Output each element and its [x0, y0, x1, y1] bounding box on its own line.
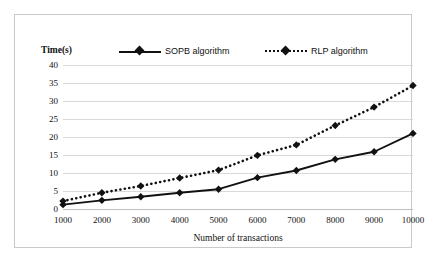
legend-swatch-dotted-line-icon: [265, 46, 307, 57]
legend-item-rlp[interactable]: RLP algorithm: [265, 43, 368, 59]
chart-frame: Time(s) SOPB algorithm RLP algorithm 051…: [14, 14, 412, 248]
data-point: [176, 174, 183, 181]
y-tick-label-20: 20: [49, 132, 58, 142]
x-tick-label-8000: 8000: [326, 215, 344, 225]
x-tick-label-4000: 4000: [171, 215, 189, 225]
x-tick-label-5000: 5000: [210, 215, 228, 225]
data-point: [176, 189, 183, 196]
legend-item-sopb[interactable]: SOPB algorithm: [119, 43, 230, 59]
data-point: [409, 130, 416, 137]
y-tick-label-0: 0: [54, 204, 59, 214]
data-point: [293, 167, 300, 174]
y-axis-title: Time(s): [41, 45, 72, 55]
data-point: [215, 166, 222, 173]
legend-label-rlp: RLP algorithm: [311, 46, 368, 56]
y-tick-label-35: 35: [49, 78, 58, 88]
data-point: [332, 122, 339, 129]
data-point: [254, 174, 261, 181]
chart-figure: Time(s) SOPB algorithm RLP algorithm 051…: [0, 0, 426, 270]
data-point: [215, 186, 222, 193]
x-tick-label-1000: 1000: [54, 215, 72, 225]
x-tick-label-6000: 6000: [248, 215, 266, 225]
y-tick-label-10: 10: [49, 168, 58, 178]
x-tick-label-2000: 2000: [93, 215, 111, 225]
x-tick-label-7000: 7000: [287, 215, 305, 225]
legend-label-sopb: SOPB algorithm: [165, 46, 230, 56]
series-line-sopb: [63, 133, 413, 204]
legend-swatch-solid-line-icon: [119, 46, 161, 57]
y-tick-label-5: 5: [54, 186, 59, 196]
plot-area: 0510152025303540 10002000300040005000600…: [63, 65, 413, 209]
chart-legend: SOPB algorithm RLP algorithm: [119, 43, 409, 59]
y-tick-label-15: 15: [49, 150, 58, 160]
data-point: [137, 182, 144, 189]
x-axis-title: Number of transactions: [63, 233, 413, 243]
x-tick-label-3000: 3000: [132, 215, 150, 225]
data-point: [98, 197, 105, 204]
x-tick-label-9000: 9000: [365, 215, 383, 225]
y-tick-label-30: 30: [49, 96, 58, 106]
x-tick-label-10000: 10000: [402, 215, 425, 225]
y-tick-label-40: 40: [49, 60, 58, 70]
data-point: [370, 103, 377, 110]
data-point: [332, 156, 339, 163]
data-point: [98, 189, 105, 196]
data-point: [370, 148, 377, 155]
y-tick-label-25: 25: [49, 114, 58, 124]
data-point: [254, 152, 261, 159]
gridline-0: [63, 209, 413, 210]
data-point: [409, 82, 416, 89]
data-point: [293, 141, 300, 148]
data-point: [137, 193, 144, 200]
series-plot: [63, 65, 413, 209]
